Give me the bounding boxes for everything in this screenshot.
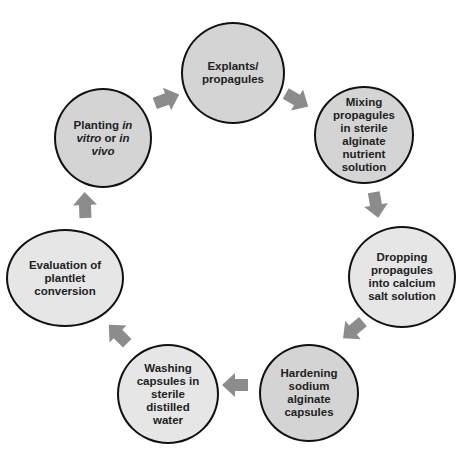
node-washing-line: distilled (137, 401, 200, 414)
node-hardening-line: Hardening (281, 367, 338, 380)
node-evaluation: Evaluation of plantlet conversion (6, 229, 124, 327)
node-dropping-line: propagules (368, 264, 436, 277)
node-dropping-line: salt solution (368, 290, 436, 303)
node-washing-line: sterile (137, 388, 200, 401)
node-evaluation-line: plantlet (29, 272, 101, 285)
node-planting-text-italic: in (119, 132, 129, 144)
arrow-icon (73, 192, 98, 219)
node-explants-line: propagules (202, 73, 264, 86)
node-hardening: Hardening sodium alginate capsules (259, 344, 359, 442)
node-washing-line: Washing (137, 362, 200, 375)
node-washing-line: capsules in (137, 375, 200, 388)
node-planting-text: or (101, 132, 119, 144)
node-hardening-line: alginate (281, 393, 338, 406)
node-planting-text-italic: in (122, 119, 132, 131)
node-hardening-line: sodium (281, 380, 338, 393)
node-mixing-line: solution (333, 161, 395, 174)
arrow-icon (100, 316, 135, 351)
node-mixing-line: alginate (333, 135, 395, 148)
node-planting: Planting in vitro or in vivo (54, 88, 152, 188)
node-explants-line: Explants/ (202, 60, 264, 73)
node-planting-text: Planting (74, 119, 123, 131)
node-washing: Washing capsules in sterile distilled wa… (117, 344, 219, 444)
node-dropping-line: into calcium (368, 277, 436, 290)
node-mixing-line: nutrient (333, 148, 395, 161)
node-mixing-line: propagules (333, 109, 395, 122)
node-hardening-line: capsules (281, 406, 338, 419)
node-planting-text-italic: vivo (91, 145, 114, 157)
node-washing-line: water (137, 414, 200, 427)
node-planting-text-italic: vitro (76, 132, 101, 144)
node-mixing-line: in sterile (333, 122, 395, 135)
node-dropping: Dropping propagules into calcium salt so… (348, 226, 456, 328)
node-dropping-line: Dropping (368, 251, 436, 264)
arrow-icon (222, 373, 248, 397)
node-explants: Explants/ propagules (181, 22, 285, 124)
arrow-icon (335, 312, 370, 347)
arrow-icon (362, 190, 390, 220)
node-evaluation-line: Evaluation of (29, 259, 101, 272)
arrow-icon (151, 83, 184, 114)
arrow-icon (280, 83, 315, 117)
node-evaluation-line: conversion (29, 285, 101, 298)
node-mixing-line: Mixing (333, 96, 395, 109)
node-mixing: Mixing propagules in sterile alginate nu… (314, 86, 414, 184)
